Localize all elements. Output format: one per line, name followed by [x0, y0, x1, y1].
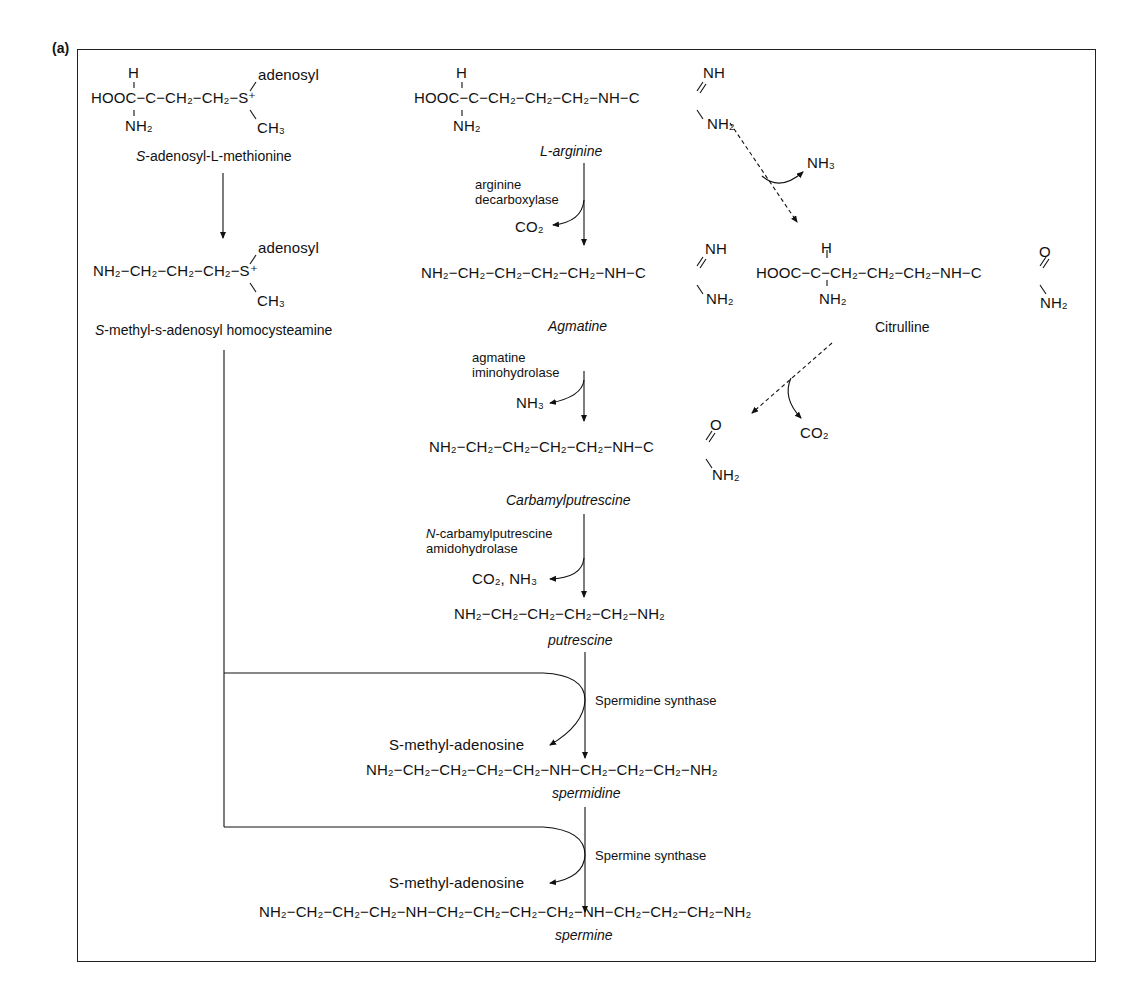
step1-byproduct: CO₂: [515, 218, 544, 235]
putrescine-structure: NH₂−CH₂−CH₂−CH₂−CH₂−NH₂: [454, 605, 665, 622]
decarb-sam-structure: NH₂−CH₂−CH₂−CH₂−S⁺: [93, 262, 258, 280]
spermidine-name: spermidine: [552, 785, 620, 801]
arginine-nh2-guan: NH₂: [707, 115, 735, 132]
arginine-structure: HOOC−C−CH₂−CH₂−CH₂−NH−C: [414, 89, 640, 106]
carbamylputrescine-name: Carbamylputrescine: [506, 492, 631, 508]
citrulline-name: Citrulline: [875, 319, 929, 335]
agmatine-nh2: NH₂: [706, 290, 734, 307]
spermine-structure: NH₂−CH₂−CH₂−CH₂−NH−CH₂−CH₂−CH₂−CH₂−NH−CH…: [259, 903, 751, 920]
arginine-h: H: [456, 64, 467, 81]
citrulline-nh2-alpha: NH₂: [819, 290, 847, 307]
enzyme-n-carbamylputrescine-amidohydrolase: N-carbamylputrescineamidohydrolase: [426, 526, 552, 556]
enzyme-arginine-decarboxylase: argininedecarboxylase: [475, 177, 559, 207]
sam-name: S-adenosyl-L-methionine: [136, 148, 292, 164]
sam-structure: HOOC−C−CH₂−CH₂−S⁺: [91, 89, 257, 107]
citrulline-h: H: [821, 239, 832, 256]
citrulline-nh2-urea: NH₂: [1040, 294, 1068, 311]
agmatine-structure: NH₂−CH₂−CH₂−CH₂−CH₂−NH−C: [421, 264, 646, 281]
spermidine-structure: NH₂−CH₂−CH₂−CH₂−CH₂−NH−CH₂−CH₂−CH₂−NH₂: [366, 761, 718, 778]
carbamylputrescine-o: O: [710, 416, 722, 433]
enzyme-spermine-synthase: Spermine synthase: [595, 848, 706, 863]
decarb-sam-name: S-methyl-s-adenosyl homocysteamine: [95, 322, 332, 338]
decarb-sam-adenosyl: adenosyl: [258, 239, 319, 256]
alt-step2-byproduct: CO₂: [800, 424, 829, 441]
arginine-name: L-arginine: [540, 143, 602, 159]
putrescine-name: putrescine: [548, 632, 613, 648]
enzyme-spermidine-synthase: Spermidine synthase: [595, 693, 716, 708]
arginine-nh: NH: [703, 64, 725, 81]
step4-byproduct: S-methyl-adenosine: [389, 736, 524, 753]
carbamylputrescine-nh2: NH₂: [712, 466, 740, 483]
step2-byproduct: NH₃: [516, 394, 544, 411]
spermine-name: spermine: [555, 927, 613, 943]
arginine-nh2-alpha: NH₂: [453, 117, 481, 134]
sam-nh2: NH₂: [125, 117, 153, 134]
agmatine-name: Agmatine: [548, 318, 607, 334]
agmatine-nh: NH: [705, 240, 727, 257]
enzyme-agmatine-iminohydrolase: agmatineiminohydrolase: [472, 350, 559, 380]
step5-byproduct: S-methyl-adenosine: [389, 874, 524, 891]
sam-adenosyl: adenosyl: [258, 66, 319, 83]
step3-byproduct: CO₂, NH₃: [472, 570, 537, 587]
sam-h: H: [128, 64, 139, 81]
alt-step1-byproduct: NH₃: [807, 154, 835, 171]
carbamylputrescine-structure: NH₂−CH₂−CH₂−CH₂−CH₂−NH−C: [429, 438, 654, 455]
citrulline-structure: HOOC−C−CH₂−CH₂−CH₂−NH−C: [756, 264, 982, 281]
decarb-sam-ch3: CH₃: [257, 292, 285, 309]
sam-ch3: CH₃: [257, 119, 285, 136]
citrulline-o: O: [1039, 243, 1051, 260]
